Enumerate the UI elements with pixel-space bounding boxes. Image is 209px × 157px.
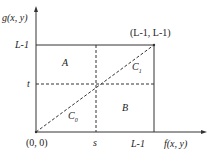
y-tick-l-1: L-1 <box>15 40 29 50</box>
x-tick-l-1: L-1 <box>131 139 145 149</box>
y-tick-t: t <box>27 79 30 89</box>
region-a-label: A <box>62 58 68 68</box>
corner-label: (L-1, L-1) <box>130 28 171 38</box>
y-axis-label: g(x, y) <box>2 13 28 23</box>
x-axis-arrow-icon <box>201 130 207 134</box>
x-axis-label: f(x, y) <box>164 139 187 149</box>
corner-point <box>153 44 155 46</box>
diagram-canvas <box>0 0 209 157</box>
origin-point <box>35 131 37 133</box>
y-axis-arrow-icon <box>34 6 38 12</box>
region-b-label: B <box>122 103 128 113</box>
origin-label: (0, 0) <box>26 138 48 148</box>
diagonal-dashed-line <box>36 45 154 132</box>
x-tick-s: s <box>93 138 97 148</box>
region-c1-label: C1 <box>132 62 142 74</box>
region-c0-label: C0 <box>68 111 78 123</box>
